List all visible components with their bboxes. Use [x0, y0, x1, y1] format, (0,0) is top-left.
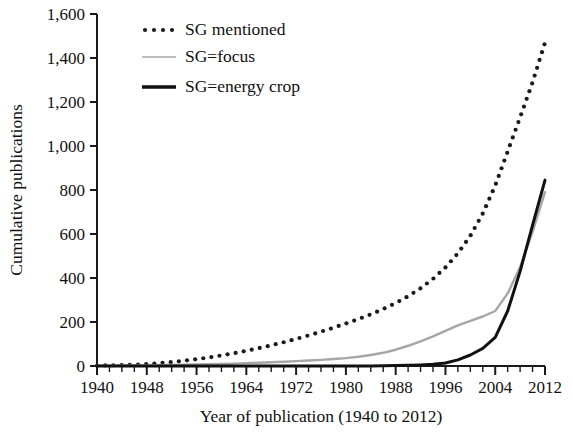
data-dot	[537, 58, 541, 62]
legend-label: SG=focus	[185, 46, 255, 66]
data-dot	[481, 212, 485, 216]
data-dot	[464, 240, 468, 244]
chart-figure: 02004006008001,0001,2001,4001,600 194019…	[0, 0, 573, 433]
x-tick-label: 1980	[329, 378, 363, 397]
x-tick-label: 1956	[180, 378, 214, 397]
y-tick-label: 200	[60, 313, 86, 332]
data-dot	[217, 354, 221, 358]
data-dot	[234, 351, 238, 355]
legend-label: SG=energy crop	[185, 76, 300, 96]
data-dot	[519, 112, 523, 116]
x-tick-label: 1940	[80, 378, 114, 397]
data-dot	[282, 340, 286, 344]
data-dot	[404, 295, 408, 299]
data-dot	[193, 357, 197, 361]
data-dot	[516, 120, 520, 124]
x-tick-label: 1988	[379, 378, 413, 397]
y-tick-label: 1,000	[47, 137, 85, 156]
data-dot	[418, 286, 422, 290]
y-tick-label: 1,400	[47, 49, 85, 68]
x-tick-label: 1972	[279, 378, 313, 397]
data-dot	[375, 310, 379, 314]
data-dot	[527, 89, 531, 93]
data-dot	[514, 128, 518, 132]
data-dot	[344, 321, 348, 325]
data-dot	[487, 197, 491, 201]
dotted-line-swatch	[170, 28, 174, 32]
y-tick-label: 600	[60, 225, 86, 244]
data-dot	[473, 226, 477, 230]
data-dot	[360, 316, 364, 320]
x-axis-title: Year of publication (1940 to 2012)	[200, 406, 443, 426]
data-dot	[469, 233, 473, 237]
cumulative-publications-line-chart: 02004006008001,0001,2001,4001,600 194019…	[0, 0, 573, 433]
data-dot	[535, 66, 539, 70]
x-tick-label: 1964	[229, 378, 264, 397]
dotted-line-swatch	[143, 28, 147, 32]
y-axis-title: Cumulative publications	[6, 104, 26, 276]
data-dot	[201, 356, 205, 360]
x-tick-label: 2004	[478, 378, 513, 397]
data-dot	[505, 151, 509, 155]
data-dot	[454, 253, 458, 257]
data-dot	[382, 306, 386, 310]
chart-background	[0, 0, 573, 433]
data-dot	[511, 135, 515, 139]
data-dot	[491, 189, 495, 193]
data-dot	[313, 331, 317, 335]
data-dot	[274, 342, 278, 346]
data-dot	[329, 326, 333, 330]
data-dot	[522, 105, 526, 109]
data-dot	[542, 42, 546, 46]
data-dot	[397, 299, 401, 303]
data-dot	[242, 349, 246, 353]
data-dot	[266, 344, 270, 348]
data-dot	[258, 346, 262, 350]
data-dot	[411, 291, 415, 295]
data-dot	[533, 74, 537, 78]
dotted-line-swatch	[152, 28, 156, 32]
data-dot	[367, 313, 371, 317]
data-dot	[185, 358, 189, 362]
data-dot	[209, 355, 213, 359]
data-dot	[508, 143, 512, 147]
data-dot	[297, 336, 301, 340]
data-dot	[337, 324, 341, 328]
data-dot	[250, 348, 254, 352]
data-dot	[497, 174, 501, 178]
data-dot	[352, 319, 356, 323]
data-dot	[449, 259, 453, 263]
data-dot	[169, 360, 173, 364]
data-dot	[530, 81, 534, 85]
data-dot	[305, 334, 309, 338]
y-tick-label: 1,200	[47, 93, 85, 112]
data-dot	[540, 50, 544, 54]
data-dot	[437, 271, 441, 275]
y-tick-label: 400	[60, 269, 86, 288]
data-dot	[477, 219, 481, 223]
data-dot	[502, 158, 506, 162]
x-tick-label: 1948	[130, 378, 164, 397]
legend-label: SG mentioned	[185, 19, 286, 39]
data-dot	[431, 276, 435, 280]
x-tick-label: 1996	[428, 378, 462, 397]
dotted-line-swatch	[161, 28, 165, 32]
data-dot	[494, 182, 498, 186]
data-dot	[225, 352, 229, 356]
y-tick-label: 0	[77, 357, 86, 376]
data-dot	[390, 303, 394, 307]
y-tick-label: 1,600	[47, 5, 85, 24]
data-dot	[499, 166, 503, 170]
data-dot	[525, 97, 529, 101]
data-dot	[459, 246, 463, 250]
data-dot	[443, 265, 447, 269]
data-dot	[321, 329, 325, 333]
data-dot	[289, 338, 293, 342]
data-dot	[484, 204, 488, 208]
data-dot	[177, 359, 181, 363]
data-dot	[425, 281, 429, 285]
x-tick-label: 2012	[528, 378, 562, 397]
y-tick-label: 800	[60, 181, 86, 200]
